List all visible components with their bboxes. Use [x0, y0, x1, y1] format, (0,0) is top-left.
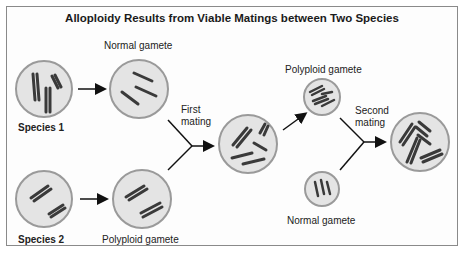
polyploid-gamete-bottom-cell — [113, 170, 171, 228]
polyploid-gamete-bottom-label: Polyploid gamete — [102, 234, 179, 245]
first-mating-connector — [168, 120, 212, 170]
species1-label: Species 1 — [18, 122, 64, 133]
hybrid-cell — [219, 115, 277, 173]
normal-gamete-top-label: Normal gamete — [104, 40, 172, 51]
species1-cell — [16, 61, 72, 117]
allopolyploid-cell — [391, 113, 449, 171]
second-mating-label-line1: Second — [355, 105, 389, 116]
normal-gamete-bottom-label: Normal gamete — [287, 215, 355, 226]
alloploidy-diagram — [0, 0, 464, 258]
polyploid-gamete-top-label: Polyploid gamete — [285, 64, 362, 75]
first-mating-label-line1: First — [181, 104, 200, 115]
arrow-icon — [283, 114, 305, 130]
normal-gamete-bottom-cell — [305, 172, 339, 206]
first-mating-label-line2: mating — [181, 116, 211, 127]
polyploid-gamete-top-cell — [304, 79, 340, 115]
normal-gamete-top-cell — [110, 60, 168, 118]
species2-cell — [16, 171, 72, 227]
second-mating-label-line2: mating — [355, 117, 385, 128]
species2-label: Species 2 — [18, 234, 64, 245]
